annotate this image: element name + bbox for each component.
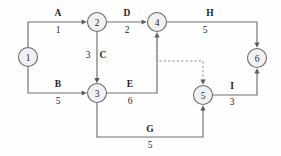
edge-i-path [213, 70, 258, 95]
edge-i-name: I [230, 81, 234, 91]
edge-e-name: E [127, 79, 133, 89]
edge-group [28, 19, 260, 137]
edge-g-name: G [146, 124, 154, 134]
edge-h-weight: 5 [203, 25, 208, 35]
edge-a-arrowhead [82, 19, 87, 24]
edge-g-weight: 5 [148, 140, 153, 150]
edge-a-weight: 1 [56, 25, 61, 35]
edge-dummy-arrowhead [200, 80, 205, 85]
node-2-label: 2 [95, 18, 100, 28]
edge-h-name: H [206, 8, 214, 18]
edge-b-name: B [55, 79, 62, 89]
node-4[interactable]: 4 [148, 13, 167, 32]
edge-a-name: A [55, 8, 62, 18]
edge-d-arrowhead [142, 19, 147, 24]
edge-dummy-dashed [157, 33, 206, 85]
node-1-label: 1 [26, 53, 31, 63]
node-3[interactable]: 3 [88, 84, 107, 103]
edge-h-arrowhead [254, 43, 259, 48]
node-4-label: 4 [155, 18, 160, 28]
node-1[interactable]: 1 [19, 48, 38, 67]
node-6-label: 6 [255, 54, 260, 64]
edge-c-name: C [100, 50, 107, 60]
edge-label-group: A 1 B 5 C 3 D 2 E 6 G 5 H 5 I 3 [55, 8, 235, 150]
edge-i [213, 68, 260, 95]
edge-h [167, 22, 260, 48]
node-5-label: 5 [201, 91, 206, 101]
node-3-label: 3 [95, 89, 100, 99]
edge-d [107, 19, 147, 24]
node-6[interactable]: 6 [248, 49, 267, 68]
edge-d-weight: 2 [125, 25, 130, 35]
edge-d-name: D [124, 8, 131, 18]
edge-c-weight: 3 [86, 50, 91, 60]
network-diagram-svg: 1 2 3 4 5 6 A [0, 0, 281, 156]
edge-e-weight: 6 [128, 96, 133, 106]
edge-h-path [167, 22, 258, 46]
edge-c-arrowhead [94, 78, 99, 83]
node-2[interactable]: 2 [88, 13, 107, 32]
edge-i-arrowhead [254, 68, 259, 73]
network-diagram-canvas: 1 2 3 4 5 6 A [0, 0, 281, 156]
edge-g-arrowhead [200, 105, 205, 110]
edge-dummy-path [157, 33, 203, 84]
node-5[interactable]: 5 [194, 86, 213, 105]
edge-b-weight: 5 [56, 96, 61, 106]
edge-i-weight: 3 [230, 97, 235, 107]
edge-b-arrowhead [82, 90, 87, 95]
